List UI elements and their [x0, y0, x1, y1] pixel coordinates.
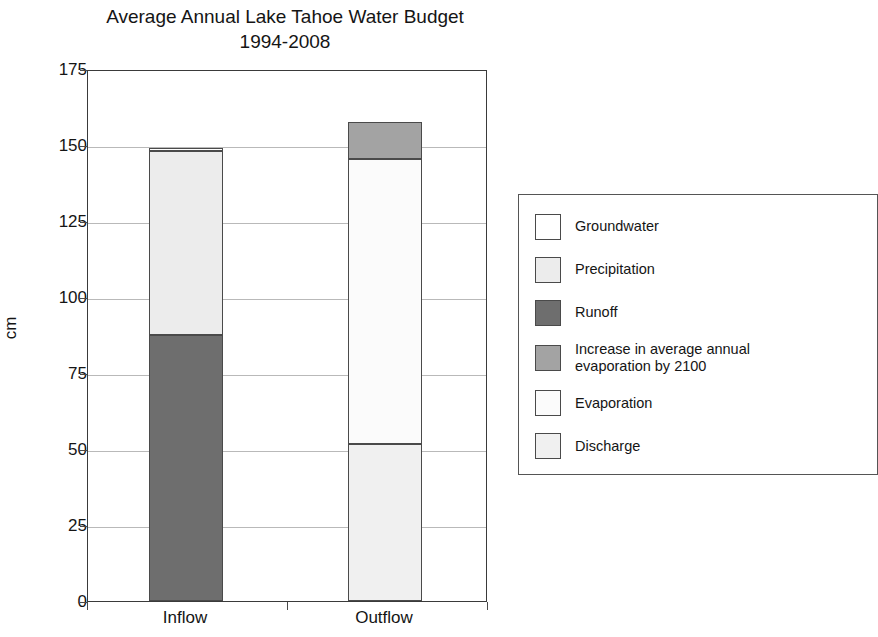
bar-segment[interactable] — [149, 148, 223, 151]
x-tick-mark — [287, 602, 288, 610]
y-tick-mark — [80, 146, 87, 147]
legend-label: Increase in average annual evaporation b… — [575, 341, 750, 375]
gridline — [88, 147, 486, 148]
y-tick-label: 100 — [31, 288, 87, 308]
y-tick-label: 75 — [31, 364, 87, 384]
bar-segment[interactable] — [348, 444, 422, 601]
legend-label: Discharge — [575, 438, 640, 455]
bar-segment[interactable] — [348, 122, 422, 158]
y-tick-label: 25 — [31, 516, 87, 536]
plot-area — [87, 70, 487, 602]
legend-item[interactable]: Discharge — [535, 431, 877, 461]
gridline — [88, 375, 486, 376]
legend-label: Runoff — [575, 304, 617, 321]
x-tick-label: Inflow — [105, 608, 265, 628]
legend-swatch-icon — [535, 390, 561, 416]
y-tick-label: 0 — [31, 592, 87, 612]
bar-segment[interactable] — [149, 335, 223, 601]
legend-swatch-icon — [535, 300, 561, 326]
chart-legend: GroundwaterPrecipitationRunoffIncrease i… — [518, 194, 878, 475]
legend-item[interactable]: Increase in average annual evaporation b… — [535, 341, 877, 375]
legend-swatch-icon — [535, 257, 561, 283]
legend-item[interactable]: Evaporation — [535, 388, 877, 418]
y-tick-mark — [80, 298, 87, 299]
x-tick-mark — [87, 602, 88, 610]
gridline — [88, 527, 486, 528]
legend-swatch-icon — [535, 345, 561, 371]
legend-item[interactable]: Runoff — [535, 298, 877, 328]
legend-label: Precipitation — [575, 261, 655, 278]
legend-item[interactable]: Groundwater — [535, 212, 877, 242]
legend-item[interactable]: Precipitation — [535, 255, 877, 285]
y-tick-label: 175 — [31, 60, 87, 80]
bar-segment[interactable] — [348, 159, 422, 445]
legend-swatch-icon — [535, 214, 561, 240]
bar-outflow[interactable] — [348, 69, 422, 601]
y-tick-mark — [80, 374, 87, 375]
y-tick-mark — [80, 450, 87, 451]
bar-segment[interactable] — [149, 151, 223, 335]
bar-inflow[interactable] — [149, 69, 223, 601]
y-tick-mark — [80, 526, 87, 527]
y-axis: 0255075100125150175 — [0, 70, 87, 602]
legend-label: Groundwater — [575, 218, 659, 235]
y-tick-label: 50 — [31, 440, 87, 460]
y-tick-label: 150 — [31, 136, 87, 156]
y-tick-mark — [80, 602, 87, 603]
y-tick-label: 125 — [31, 212, 87, 232]
gridline — [88, 299, 486, 300]
x-tick-label: Outflow — [304, 608, 464, 628]
gridline — [88, 451, 486, 452]
legend-swatch-icon — [535, 433, 561, 459]
y-tick-mark — [80, 70, 87, 71]
y-tick-mark — [80, 222, 87, 223]
gridline — [88, 223, 486, 224]
x-tick-mark — [487, 602, 488, 610]
legend-label: Evaporation — [575, 395, 652, 412]
chart-title: Average Annual Lake Tahoe Water Budget 1… — [60, 4, 510, 54]
